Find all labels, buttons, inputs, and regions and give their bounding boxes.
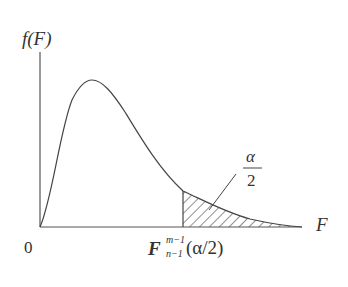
x-axis-label: F bbox=[316, 214, 328, 236]
y-axis-label: f(F) bbox=[22, 28, 52, 50]
tail-region-hatch bbox=[183, 185, 308, 230]
tail-area-leader bbox=[209, 174, 236, 210]
tail-area-denominator: 2 bbox=[247, 171, 256, 191]
critical-value-base: F bbox=[148, 238, 161, 260]
origin-label: 0 bbox=[24, 238, 33, 258]
critical-value-superscript: m−1 bbox=[166, 234, 185, 245]
critical-value-subscript: n−1 bbox=[166, 248, 183, 259]
critical-value-argument: (α/2) bbox=[186, 237, 223, 259]
tail-area-numerator: α bbox=[246, 147, 255, 167]
density-curve bbox=[40, 80, 302, 227]
